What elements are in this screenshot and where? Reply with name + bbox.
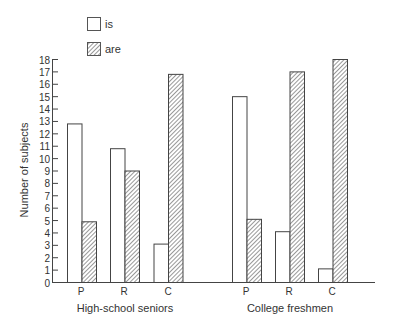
y-tick-label: 18 (39, 55, 51, 66)
y-tick-label: 3 (44, 240, 50, 251)
category-labels: P R C P R C (78, 286, 336, 297)
legend-swatch-is (88, 18, 101, 31)
y-tick-label: 11 (40, 141, 51, 152)
y-tick-label: 10 (39, 154, 51, 165)
y-tick-label: 1 (44, 265, 50, 276)
bars (68, 60, 348, 283)
bar-chart: is are Number of subjects 01234567891011… (0, 0, 398, 327)
legend-label-is: is (105, 18, 113, 30)
bar-are-r (125, 171, 140, 283)
bar-are-c (333, 60, 348, 283)
y-tick-label: 7 (44, 191, 50, 202)
y-tick-label: 5 (44, 216, 50, 227)
y-tick-label: 0 (44, 278, 50, 289)
bar-is-p (68, 124, 83, 283)
legend-label-are: are (105, 43, 121, 55)
y-tick-label: 2 (44, 253, 50, 264)
category-label-cf-c: C (328, 286, 335, 297)
y-tick-label: 15 (39, 92, 51, 103)
y-axis: 0123456789101112131415161718 (39, 55, 58, 289)
y-tick-label: 16 (39, 79, 51, 90)
category-label-hs-p: P (78, 286, 85, 297)
group-label-high-school-seniors: High-school seniors (77, 302, 174, 314)
bar-are-p (247, 219, 262, 282)
legend: is are (88, 18, 121, 56)
y-tick-label: 14 (39, 104, 51, 115)
category-label-hs-r: R (120, 286, 127, 297)
category-label-cf-r: R (285, 286, 292, 297)
category-label-hs-c: C (164, 286, 171, 297)
y-tick-label: 17 (39, 67, 51, 78)
legend-swatch-are (88, 43, 101, 56)
y-tick-label: 4 (44, 228, 50, 239)
y-tick-label: 8 (44, 178, 50, 189)
bar-is-p (233, 97, 248, 283)
bar-is-r (111, 149, 126, 283)
bar-are-p (82, 222, 97, 283)
bar-is-c (319, 269, 334, 283)
y-tick-label: 12 (39, 129, 51, 140)
group-label-college-freshmen: College freshmen (247, 302, 333, 314)
bar-is-c (154, 244, 169, 282)
category-label-cf-p: P (243, 286, 250, 297)
bar-are-r (290, 72, 305, 283)
y-tick-label: 9 (44, 166, 50, 177)
y-axis-label: Number of subjects (18, 122, 30, 217)
bar-is-r (276, 232, 291, 283)
y-tick-label: 13 (39, 116, 51, 127)
y-tick-label: 6 (44, 203, 50, 214)
bar-are-c (169, 74, 184, 282)
